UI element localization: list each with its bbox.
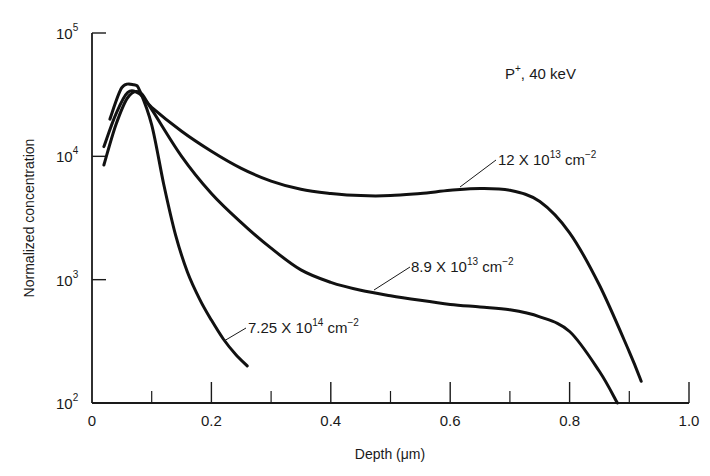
curve-8.9e13 [104,92,618,403]
x-ticks: 00.20.40.60.81.0 [88,382,700,429]
y-ticks: 102103104105 [56,22,106,412]
y-tick-label: 102 [56,392,79,412]
x-tick-label: 0.4 [320,412,341,429]
curve-7.25e14 [110,84,247,366]
y-tick-label: 104 [56,145,79,165]
x-tick-label: 0.2 [201,412,222,429]
svg-text:8.9 X 1013 cm−2: 8.9 X 1013 cm−2 [411,256,514,275]
y-tick-label: 103 [56,269,79,289]
title-energy: , 40 keV [521,65,576,82]
x-tick-label: 0.8 [559,412,580,429]
leader-line [460,160,496,187]
x-axis: 00.20.40.60.81.0 [88,382,700,429]
series-label-7.25e14: 7.25 X 1014 cm−2 [224,317,359,341]
series-label-8.9e13: 8.9 X 1013 cm−2 [374,256,514,290]
svg-text:7.25 X 1014 cm−2: 7.25 X 1014 cm−2 [248,317,359,336]
x-tick-label: 0 [88,412,96,429]
leader-line [224,328,246,341]
svg-text:P+, 40 keV: P+, 40 keV [505,63,576,82]
title-ion: P [505,65,515,82]
chart-title-annotation: P+, 40 keV [505,63,576,82]
series-label-12e13: 12 X 1013 cm−2 [460,149,597,187]
curve-12e13 [104,91,641,382]
y-axis-title: Normalized concentration [21,139,37,298]
data-curves [104,84,641,403]
chart-canvas: 102103104105 00.20.40.60.81.0 Depth (μm)… [0,0,710,476]
leader-line [374,267,410,290]
x-tick-label: 1.0 [679,412,700,429]
x-tick-label: 0.6 [440,412,461,429]
y-tick-label: 105 [56,22,79,42]
svg-text:12 X 1013 cm−2: 12 X 1013 cm−2 [498,149,597,168]
y-axis: 102103104105 [56,22,106,412]
x-axis-title: Depth (μm) [355,446,425,462]
